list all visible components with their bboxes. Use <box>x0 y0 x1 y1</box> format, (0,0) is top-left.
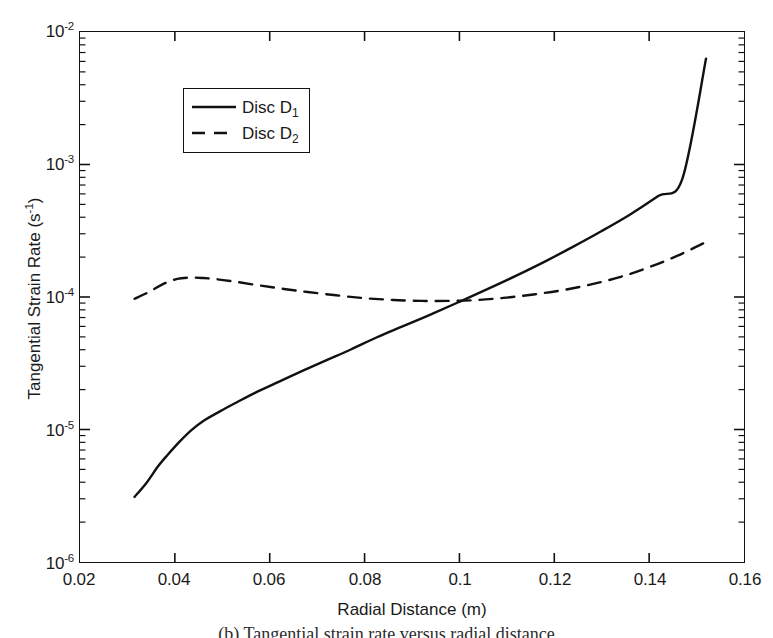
y-axis-title-exponent: -1 <box>23 203 35 213</box>
y-axis-title: Tangential Strain Rate (s-1) <box>26 29 43 569</box>
legend-label-disc-d2: Disc D2 <box>242 125 299 142</box>
x-tick-label-3: 0.08 <box>325 571 405 588</box>
x-tick-label-0: 0.02 <box>39 571 119 588</box>
x-tick-label-6: 0.14 <box>610 571 690 588</box>
legend-item-disc-d2: Disc D2 <box>191 120 299 146</box>
legend-swatch-solid-icon <box>191 100 237 114</box>
legend-label-disc-d1: Disc D1 <box>242 99 299 116</box>
plot-canvas <box>80 32 744 562</box>
plot-area: Disc D1 Disc D2 <box>79 31 745 563</box>
y-axis-title-text: Tangential Strain Rate (s <box>25 213 44 399</box>
figure-caption: (b) Tangential strain rate versus radial… <box>0 625 773 638</box>
legend-swatch-dashed-icon <box>191 126 237 140</box>
series-disc-d2-line <box>135 242 707 301</box>
y-axis-title-tail: ) <box>25 197 44 203</box>
x-tick-label-4: 0.1 <box>420 571 500 588</box>
x-tick-label-5: 0.12 <box>515 571 595 588</box>
legend-item-disc-d1: Disc D1 <box>191 94 299 120</box>
figure-tangential-strain-rate: 10-2 10-3 10-4 10-5 10-6 0.02 0.04 0.06 … <box>0 0 773 638</box>
x-tick-label-7: 0.16 <box>705 571 773 588</box>
y-axis-minor-ticks <box>80 38 744 522</box>
x-axis-title: Radial Distance (m) <box>79 601 745 618</box>
x-tick-label-1: 0.04 <box>134 571 214 588</box>
x-tick-label-2: 0.06 <box>229 571 309 588</box>
legend: Disc D1 Disc D2 <box>183 88 310 153</box>
